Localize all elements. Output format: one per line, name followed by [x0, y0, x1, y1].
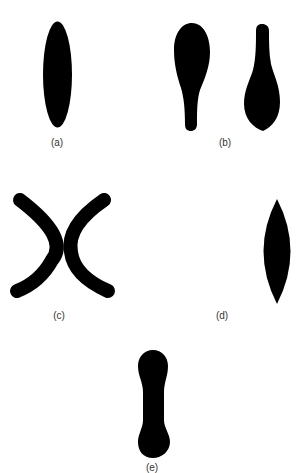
panel-a-label: (a) [51, 137, 63, 148]
panel-a-shape [43, 22, 72, 128]
panel-c-right-arc [70, 200, 108, 291]
panel-e-label: (e) [146, 462, 158, 473]
panel-e-shape [138, 350, 170, 458]
panel-d-label: (d) [216, 310, 228, 321]
panel-c-label: (c) [53, 310, 65, 321]
panel-b-shapes [174, 23, 280, 131]
panel-b-label: (b) [219, 137, 231, 148]
panel-c-left-arc [17, 200, 57, 291]
panel-d-shape [264, 199, 291, 304]
panel-b-right-shape [244, 24, 280, 131]
panel-c-shapes [17, 200, 108, 291]
panel-b-left-shape [174, 23, 210, 131]
